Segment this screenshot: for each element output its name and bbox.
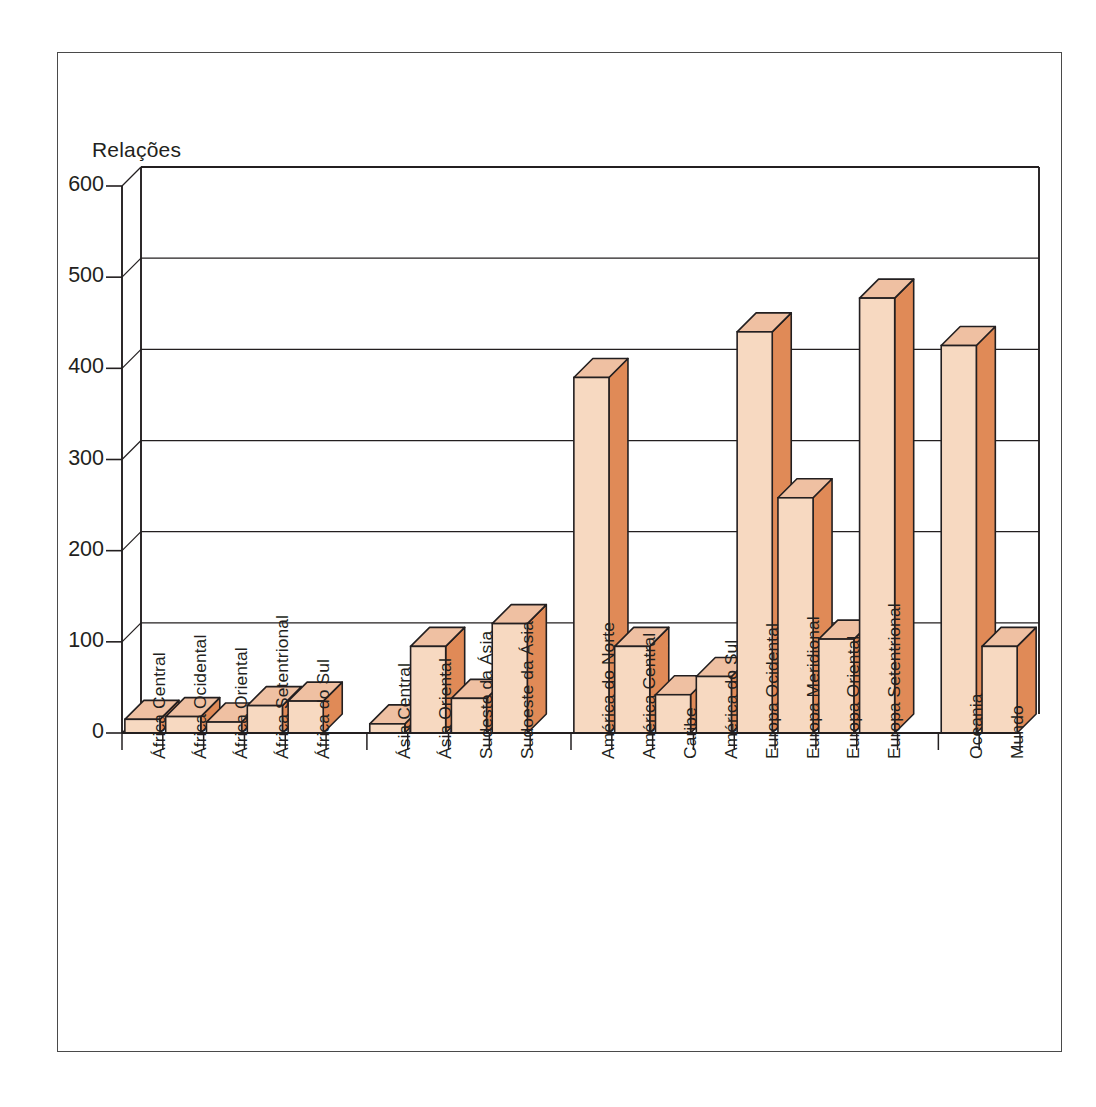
x-tick-label: Mundo	[1007, 705, 1028, 759]
x-tick-label: Ásia Oriental	[435, 658, 456, 759]
y-axis-title: Relações	[92, 138, 181, 162]
x-tick-label: Europa Meridional	[803, 616, 824, 759]
x-tick-label: América do Sul	[721, 640, 742, 759]
x-tick-label: Sudoeste da Ásia	[517, 621, 538, 759]
x-tick-label: Europa Oriental	[843, 636, 864, 759]
x-tick-label: Ásia Central	[394, 663, 415, 759]
x-tick-label: Europa Ocidental	[762, 623, 783, 759]
x-tick-label: Caribe	[680, 707, 701, 759]
x-tick-label: África do Sul	[313, 659, 334, 759]
y-tick-label: 300	[42, 446, 104, 471]
x-tick-label: África Oriental	[231, 647, 252, 759]
x-tick-label: Europa Setentrional	[884, 603, 905, 759]
y-tick-label: 200	[42, 537, 104, 562]
figure-border	[57, 52, 1062, 1052]
x-tick-label: África Central	[149, 652, 170, 759]
y-tick-label: 100	[42, 628, 104, 653]
x-tick-label: África Setentrional	[272, 615, 293, 759]
y-tick-label: 500	[42, 263, 104, 288]
x-tick-label: África Ocidental	[190, 635, 211, 759]
y-tick-label: 600	[42, 172, 104, 197]
x-tick-label: Sudeste da Ásia	[476, 631, 497, 759]
y-tick-label: 400	[42, 354, 104, 379]
y-tick-label: 0	[42, 719, 104, 744]
x-tick-label: América do Norte	[598, 622, 619, 759]
x-tick-label: América Central	[639, 633, 660, 759]
x-tick-label: Oceania	[966, 694, 987, 759]
